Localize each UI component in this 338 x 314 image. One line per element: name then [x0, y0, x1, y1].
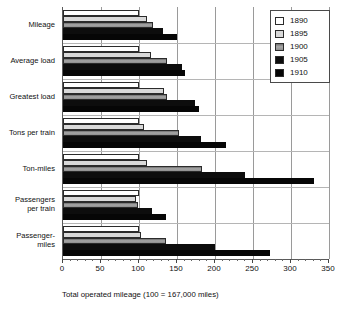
x-tick-label: 150: [169, 264, 182, 273]
x-minor-tick: [85, 259, 86, 261]
x-minor-tick: [244, 259, 245, 261]
x-tick: [138, 259, 139, 263]
x-tick: [62, 259, 63, 263]
x-minor-tick: [260, 259, 261, 261]
x-minor-tick: [222, 259, 223, 261]
legend-label: 1895: [290, 29, 308, 38]
x-minor-tick: [298, 259, 299, 261]
x-minor-tick: [305, 259, 306, 261]
bar-1910: [63, 142, 226, 148]
category-label: Tons per train: [0, 129, 55, 138]
legend-swatch-icon: [275, 17, 284, 25]
bar-1910: [63, 34, 177, 40]
x-tick-label: 300: [283, 264, 296, 273]
bar-1910: [63, 106, 199, 112]
x-minor-tick: [267, 259, 268, 261]
bar-1910: [63, 250, 270, 256]
x-minor-tick: [161, 259, 162, 261]
category-label: Passenger- miles: [0, 232, 55, 249]
x-tick-label: 350: [321, 264, 334, 273]
x-minor-tick: [282, 259, 283, 261]
x-tick-label: 100: [131, 264, 144, 273]
category-label: Mileage: [0, 21, 55, 30]
x-tick-label: 200: [207, 264, 220, 273]
legend: 18901895190019051910: [270, 10, 330, 83]
legend-label: 1905: [290, 55, 308, 64]
x-minor-tick: [275, 259, 276, 261]
x-axis: 050100150200250300350: [62, 259, 328, 277]
bar-1910: [63, 214, 166, 220]
legend-swatch-icon: [275, 30, 284, 38]
legend-item-1895: 1895: [275, 27, 326, 40]
x-minor-tick: [184, 259, 185, 261]
x-minor-tick: [108, 259, 109, 261]
legend-swatch-icon: [275, 56, 284, 64]
bar-chart: MileageAverage loadGreatest loadTons per…: [0, 0, 338, 314]
bar-1910: [63, 70, 185, 76]
x-tick-label: 250: [245, 264, 258, 273]
x-tick: [176, 259, 177, 263]
x-minor-tick: [320, 259, 321, 261]
x-minor-tick: [199, 259, 200, 261]
x-minor-tick: [92, 259, 93, 261]
legend-swatch-icon: [275, 43, 284, 51]
category-label: Passengers per train: [0, 196, 55, 213]
x-tick: [328, 259, 329, 263]
category-axis: MileageAverage loadGreatest loadTons per…: [0, 7, 58, 259]
legend-item-1890: 1890: [275, 14, 326, 27]
x-minor-tick: [146, 259, 147, 261]
legend-item-1910: 1910: [275, 66, 326, 79]
category-label: Ton-miles: [0, 165, 55, 174]
x-minor-tick: [115, 259, 116, 261]
x-minor-tick: [191, 259, 192, 261]
x-minor-tick: [123, 259, 124, 261]
legend-label: 1910: [290, 68, 308, 77]
x-minor-tick: [168, 259, 169, 261]
x-minor-tick: [206, 259, 207, 261]
legend-label: 1900: [290, 42, 308, 51]
x-minor-tick: [70, 259, 71, 261]
legend-swatch-icon: [275, 69, 284, 77]
legend-label: 1890: [290, 16, 308, 25]
x-minor-tick: [77, 259, 78, 261]
x-minor-tick: [229, 259, 230, 261]
legend-item-1900: 1900: [275, 40, 326, 53]
x-minor-tick: [130, 259, 131, 261]
x-minor-tick: [237, 259, 238, 261]
x-axis-title: Total operated mileage (100 = 167,000 mi…: [62, 290, 332, 300]
x-tick-label: 50: [96, 264, 105, 273]
x-tick-label: 0: [60, 264, 64, 273]
x-minor-tick: [313, 259, 314, 261]
legend-item-1905: 1905: [275, 53, 326, 66]
x-tick: [252, 259, 253, 263]
category-label: Average load: [0, 57, 55, 66]
bar-1910: [63, 178, 314, 184]
x-tick: [290, 259, 291, 263]
x-tick: [100, 259, 101, 263]
x-minor-tick: [153, 259, 154, 261]
x-tick: [214, 259, 215, 263]
category-label: Greatest load: [0, 93, 55, 102]
